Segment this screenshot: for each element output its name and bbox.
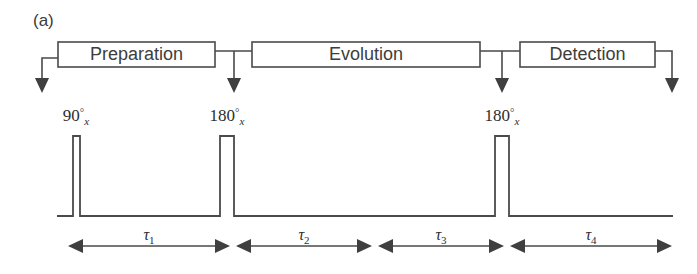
interval-tau3-head-left (378, 239, 393, 253)
interval-tau1-head-right (215, 239, 230, 253)
arrow-to-90x (35, 58, 58, 93)
block-preparation: Preparation (58, 42, 215, 67)
pulse-180x-second-axis: x (514, 115, 520, 127)
pulse-180x-second-label: 180°x (485, 106, 520, 127)
block-detection-label: Detection (549, 44, 625, 64)
interval-tau1: τ1 (68, 226, 230, 253)
interval-tau3-head-right (489, 239, 504, 253)
pulse-180x-first-label: 180°x (210, 106, 245, 127)
pulse-180x-first-angle: 180 (210, 106, 236, 125)
pulse-90x-label: 90°x (63, 106, 89, 127)
arrow-to-180x-second-head (495, 78, 509, 93)
interval-tau1-head-left (68, 239, 83, 253)
interval-tau2-label: τ2 (298, 226, 309, 246)
interval-tau4-label: τ4 (585, 226, 597, 246)
interval-tau1-label: τ1 (143, 226, 154, 246)
interval-tau2-head-right (357, 239, 372, 253)
interval-tau4-head-right (657, 239, 672, 253)
block-evolution-label: Evolution (329, 44, 403, 64)
pulse-90x-axis: x (83, 115, 89, 127)
arrow-to-180x-first-head (227, 78, 241, 93)
block-evolution: Evolution (252, 42, 480, 67)
rf-channel-trace (57, 136, 673, 216)
block-preparation-label: Preparation (90, 44, 183, 64)
arrow-end (655, 51, 679, 93)
arrow-to-180x-second (480, 51, 520, 93)
pulse-180x-second-angle: 180 (485, 106, 511, 125)
arrow-to-90x-head (35, 78, 49, 93)
interval-tau3: τ3 (378, 226, 504, 253)
block-detection: Detection (520, 42, 655, 67)
arrow-end-head (665, 78, 679, 93)
nmr-pulse-sequence-diagram: (a) Preparation Evolution Detection (0, 0, 697, 274)
interval-tau4: τ4 (510, 226, 672, 253)
pulse-180x-first-axis: x (239, 115, 245, 127)
pulse-90x-angle: 90 (63, 106, 80, 125)
panel-label: (a) (33, 11, 54, 30)
figure-canvas: (a) Preparation Evolution Detection (0, 0, 697, 274)
interval-tau2: τ2 (236, 226, 372, 253)
interval-tau3-label: τ3 (435, 226, 447, 246)
interval-tau2-head-left (236, 239, 251, 253)
arrow-to-180x-first (215, 51, 252, 93)
interval-tau4-head-left (510, 239, 525, 253)
